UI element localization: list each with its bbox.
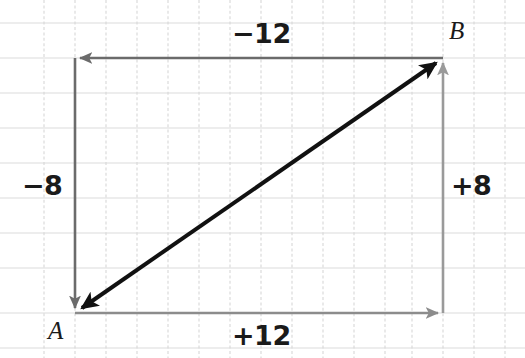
point-b-label: B: [449, 18, 464, 43]
point-a-label: A: [48, 318, 63, 343]
vector-diagram-figure: −12 +12 −8 +8 A B: [0, 0, 525, 358]
bottom-component-label: +12: [232, 322, 291, 349]
right-component-label: +8: [451, 172, 491, 199]
grid-vertical-lines: [44, 0, 505, 358]
top-component-label: −12: [232, 20, 291, 47]
diagram-canvas: [0, 0, 525, 358]
left-component-label: −8: [22, 172, 62, 199]
resultant-diagonal-arrow: [82, 63, 436, 308]
grid-layer: [0, 0, 525, 358]
